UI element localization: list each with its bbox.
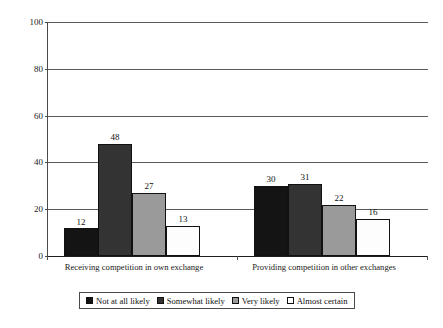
bar-slot: 12	[64, 22, 98, 256]
legend-swatch-icon	[232, 297, 239, 304]
ytick-mark-40	[45, 162, 48, 163]
chart-legend: Not at all likely Somewhat likely Very l…	[79, 292, 355, 309]
legend-label: Somewhat likely	[167, 296, 225, 306]
bar-slot: 30	[254, 22, 288, 256]
ytick-label-40: 40	[34, 158, 43, 167]
ytick-mark-60	[45, 116, 48, 117]
legend-item-almost-certain[interactable]: Almost certain	[287, 296, 348, 306]
ytick-label-0: 0	[39, 252, 44, 261]
xtick-mark-middle	[237, 256, 238, 260]
bar-almost-certain[interactable]	[356, 219, 390, 256]
bar-value-label: 27	[132, 181, 166, 191]
bar-slot: 13	[166, 22, 200, 256]
bar-value-label: 13	[166, 214, 200, 224]
bar-value-label: 48	[98, 132, 132, 142]
ytick-label-20: 20	[34, 205, 43, 214]
legend-label: Not at all likely	[96, 296, 150, 306]
legend-label: Almost certain	[297, 296, 348, 306]
bar-chart: 100 80 60 40 20 0 12 48 27 13	[0, 0, 443, 328]
bar-somewhat-likely[interactable]	[288, 184, 322, 257]
bar-value-label: 16	[356, 207, 390, 217]
bar-slot: 22	[322, 22, 356, 256]
legend-item-very-likely[interactable]: Very likely	[232, 296, 280, 306]
bar-slot: 16	[356, 22, 390, 256]
legend-item-somewhat-likely[interactable]: Somewhat likely	[157, 296, 225, 306]
bar-slot: 27	[132, 22, 166, 256]
x-axis-label-providing: Providing competition in other exchanges	[208, 262, 440, 273]
bar-group-receiving: 12 48 27 13	[64, 22, 198, 256]
bar-slot: 48	[98, 22, 132, 256]
bar-value-label: 12	[64, 217, 98, 227]
bar-almost-certain[interactable]	[166, 226, 200, 256]
bar-not-at-all-likely[interactable]	[64, 228, 98, 256]
bar-value-label: 31	[288, 172, 322, 182]
legend-swatch-icon	[157, 297, 164, 304]
bar-slot: 31	[288, 22, 322, 256]
legend-swatch-icon	[287, 297, 294, 304]
xtick-mark-right	[427, 256, 428, 260]
bar-very-likely[interactable]	[132, 193, 166, 256]
ytick-label-60: 60	[34, 111, 43, 120]
ytick-label-80: 80	[34, 64, 43, 73]
bar-value-label: 22	[322, 193, 356, 203]
ytick-label-100: 100	[30, 18, 44, 27]
bar-not-at-all-likely[interactable]	[254, 186, 288, 256]
bar-value-label: 30	[254, 174, 288, 184]
ytick-mark-20	[45, 209, 48, 210]
xtick-mark-left	[47, 256, 48, 260]
plot-area: 100 80 60 40 20 0 12 48 27 13	[47, 22, 427, 256]
legend-swatch-icon	[86, 297, 93, 304]
gridline-0	[48, 256, 428, 257]
legend-label: Very likely	[242, 296, 280, 306]
bar-somewhat-likely[interactable]	[98, 144, 132, 256]
bar-group-providing: 30 31 22 16	[254, 22, 390, 256]
ytick-mark-80	[45, 69, 48, 70]
ytick-mark-100	[45, 22, 48, 23]
bar-very-likely[interactable]	[322, 205, 356, 257]
legend-item-not-at-all-likely[interactable]: Not at all likely	[86, 296, 150, 306]
